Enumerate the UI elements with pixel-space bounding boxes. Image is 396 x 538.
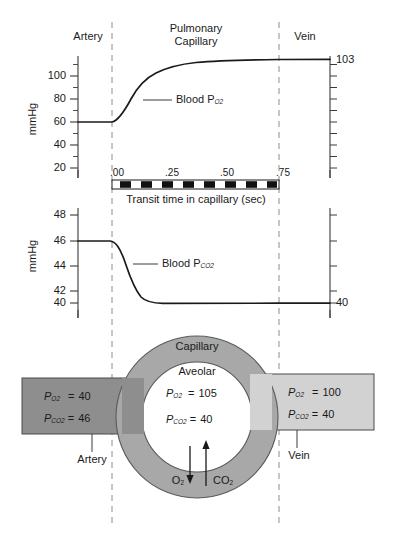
alveolar-pco2-value: PCO2=40 (166, 413, 212, 426)
pco2-series-annotation: Blood PCO2 (162, 257, 214, 270)
region-label-capillary-line2: Capillary (175, 35, 218, 47)
po2-left-minor-ticks (73, 65, 78, 157)
transit-tick-00: .00 (110, 167, 124, 178)
pco2-ytick-46: 46 (54, 234, 66, 246)
po2-annotation-sub: O2 (215, 93, 224, 105)
pco2-ytick-40: 40 (54, 296, 66, 308)
region-label-capillary-line1: Pulmonary (170, 22, 223, 34)
transit-tick-75: .75 (276, 167, 290, 178)
po2-series-annotation: Blood PO2 (176, 93, 223, 106)
transit-bar-caption: Transit time in capillary (sec) (126, 193, 266, 205)
pco2-axis-title: mmHg (26, 240, 38, 272)
capillary-label: Capillary (176, 340, 219, 352)
vein-po2-value: PO2=100 (288, 386, 341, 399)
vein-pco2-value: PCO2=40 (288, 408, 334, 421)
po2-ytick-20: 20 (54, 161, 66, 173)
artery-box-caption: Artery (77, 453, 106, 465)
po2-ytick-40: 40 (54, 138, 66, 150)
o2-arrow-label: O2 (172, 474, 184, 487)
artery-pco2-value: PCO2=46 (44, 412, 90, 425)
po2-left-major-ticks (70, 76, 78, 168)
po2-axis-title: mmHg (26, 103, 38, 135)
artery-po2-value: PO2=40 (44, 390, 91, 403)
alveolar-label: Aveolar (178, 365, 215, 377)
po2-annotation-text: Blood P (176, 93, 215, 105)
pco2-left-major-ticks (70, 215, 78, 303)
region-label-artery: Artery (73, 30, 102, 42)
pco2-annotation-text: Blood P (162, 257, 201, 269)
artery-connector (122, 378, 144, 434)
pco2-ytick-48: 48 (54, 208, 66, 220)
pco2-right-ticks (330, 215, 337, 303)
po2-right-ticks (330, 65, 337, 169)
po2-endpoint-label: 103 (336, 53, 354, 65)
po2-ytick-80: 80 (54, 92, 66, 104)
transit-tick-25: .25 (165, 167, 179, 178)
po2-curve (78, 59, 330, 122)
pco2-ytick-44: 44 (54, 259, 66, 271)
pco2-curve (78, 241, 330, 303)
po2-ytick-60: 60 (54, 115, 66, 127)
pco2-endpoint-label: 40 (336, 296, 348, 308)
pco2-annotation-sub: CO2 (201, 257, 214, 269)
pco2-ytick-42: 42 (54, 284, 66, 296)
alveolar-po2-value: PO2=105 (166, 387, 217, 400)
region-label-vein: Vein (294, 30, 315, 42)
vein-box-caption: Vein (288, 449, 309, 461)
transit-tick-50: .50 (220, 167, 234, 178)
co2-arrow-label: CO2 (213, 474, 233, 487)
pco2-bottom-stubs (78, 310, 330, 318)
vein-connector (250, 374, 272, 430)
po2-ytick-100: 100 (48, 69, 66, 81)
